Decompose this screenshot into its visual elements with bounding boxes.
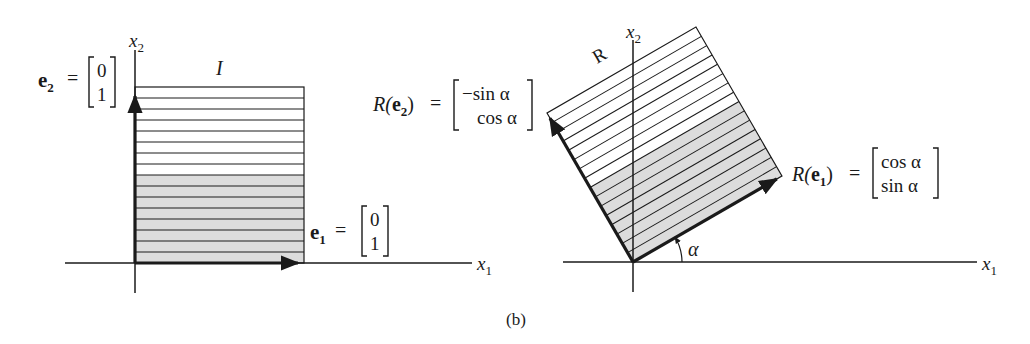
- figure-caption: (b): [506, 310, 526, 329]
- Re1-bracket-right: [933, 148, 938, 198]
- e1-bracket-left: [362, 206, 367, 256]
- Re2-component-2: cos α: [477, 107, 517, 128]
- Re2-symbol: R(e2): [372, 93, 414, 119]
- left-x2-label: x2: [128, 30, 144, 55]
- left-x1-label: x1: [476, 253, 492, 278]
- e2-definition: e2 = 0 1: [38, 57, 115, 107]
- stripe-line: [563, 55, 712, 141]
- Re2-bracket-left: [454, 80, 459, 130]
- Re2-component-1: −sin α: [462, 83, 510, 104]
- right-panel: α x2 x1 R R(e2) = −sin α cos α R(e1) = c…: [372, 21, 997, 292]
- e1-component-1: 0: [370, 209, 380, 230]
- e1-definition: e1 = 0 1: [310, 206, 388, 256]
- region-label-I: I: [215, 57, 224, 79]
- e2-symbol: e2: [38, 68, 54, 95]
- stripe-line: [552, 36, 701, 122]
- e2-component-2: 1: [97, 84, 107, 105]
- e2-bracket-right: [110, 57, 115, 107]
- left-panel: x2 x1 I e2 = 0 1 e1 = 0 1: [38, 30, 492, 293]
- Re1-component-2: sin α: [881, 175, 918, 196]
- rotated-square-R: [547, 27, 782, 262]
- Re1-equals: =: [849, 162, 860, 184]
- e2-component-1: 0: [97, 60, 107, 81]
- right-x1-label: x1: [981, 253, 997, 278]
- e2-equals: =: [67, 67, 78, 89]
- e1-bracket-right: [383, 206, 388, 256]
- Re1-definition: R(e1) = cos α sin α: [791, 148, 938, 198]
- Re2-bracket-right: [527, 80, 532, 130]
- rotation-figure: x2 x1 I e2 = 0 1 e1 = 0 1: [0, 0, 1030, 344]
- stripe-line: [558, 46, 707, 132]
- Re1-symbol: R(e1): [791, 163, 833, 189]
- e1-component-2: 1: [370, 233, 380, 254]
- Re1-component-1: cos α: [881, 151, 921, 172]
- region-label-R: R: [589, 43, 611, 68]
- angle-alpha-label: α: [688, 238, 699, 260]
- angle-alpha-arc: [675, 237, 682, 262]
- Re2-equals: =: [430, 92, 441, 114]
- e1-equals: =: [335, 219, 346, 241]
- e1-symbol: e1: [310, 220, 326, 247]
- e2-bracket-left: [89, 57, 94, 107]
- Re2-definition: R(e2) = −sin α cos α: [372, 80, 532, 130]
- Re1-bracket-left: [873, 148, 878, 198]
